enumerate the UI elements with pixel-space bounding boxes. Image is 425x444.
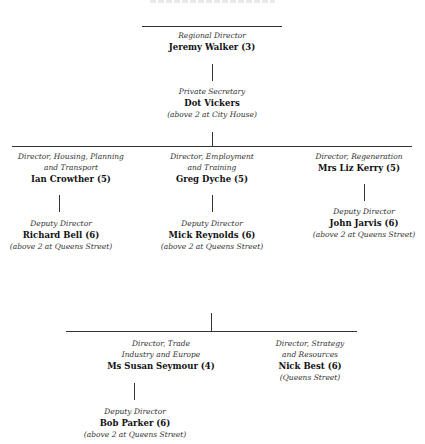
location-label: (above 2 at Queens Street) [295, 229, 425, 240]
person-name: Nick Best (6) [235, 360, 385, 372]
role-label: Director, Trade Industry and Europe [86, 338, 236, 360]
person-name: Mick Reynolds (6) [143, 229, 281, 241]
node-deputy-regeneration: Deputy Director John Jarvis (6) (above 2… [295, 206, 425, 240]
connector-line [134, 383, 135, 400]
role-label: Director, Employment and Training [143, 151, 281, 173]
node-deputy-employment: Deputy Director Mick Reynolds (6) (above… [143, 218, 281, 252]
role-label: Deputy Director [60, 406, 210, 417]
person-name: Mrs Liz Kerry (5) [290, 162, 425, 174]
role-label: Director, Regeneration [290, 151, 425, 162]
role-label: Deputy Director [295, 206, 425, 217]
node-director-regeneration: Director, Regeneration Mrs Liz Kerry (5) [290, 151, 425, 174]
location-label: (above 2 at Queens Street) [143, 241, 281, 252]
node-deputy-housing: Deputy Director Richard Bell (6) (above … [2, 218, 120, 252]
clipped-header-text [150, 0, 275, 3]
person-name: Richard Bell (6) [2, 229, 120, 241]
node-deputy-trade: Deputy Director Bob Parker (6) (above 2 … [60, 406, 210, 440]
person-name: Dot Vickers [112, 97, 312, 109]
location-label: (above 2 at Queens Street) [2, 241, 120, 252]
person-name: John Jarvis (6) [295, 217, 425, 229]
connector-line [211, 313, 212, 331]
role-label: Deputy Director [143, 218, 281, 229]
node-director-employment: Director, Employment and Training Greg D… [143, 151, 281, 185]
node-private-secretary: Private Secretary Dot Vickers (above 2 a… [112, 86, 312, 120]
role-label: Regional Director [112, 30, 312, 41]
node-director-strategy: Director, Strategy and Resources Nick Be… [235, 338, 385, 383]
connector-line [212, 195, 213, 212]
connector-line [66, 331, 357, 332]
connector-line [212, 64, 213, 81]
connector-line [212, 132, 213, 146]
role-label: Director, Strategy and Resources [235, 338, 385, 360]
connector-line [142, 26, 282, 27]
role-label: Deputy Director [2, 218, 120, 229]
connector-line [12, 146, 412, 147]
location-label: (above 2 at City House) [112, 109, 312, 120]
connector-line [59, 195, 60, 212]
node-director-housing: Director, Housing, Planning and Transpor… [2, 151, 140, 185]
node-regional-director: Regional Director Jeremy Walker (3) [112, 30, 312, 53]
person-name: Bob Parker (6) [60, 417, 210, 429]
role-label: Private Secretary [112, 86, 312, 97]
location-label: (above 2 at Queens Street) [60, 429, 210, 440]
role-label: Director, Housing, Planning and Transpor… [2, 151, 140, 173]
person-name: Ian Crowther (5) [2, 173, 140, 185]
connector-line [364, 184, 365, 201]
person-name: Greg Dyche (5) [143, 173, 281, 185]
person-name: Jeremy Walker (3) [112, 41, 312, 53]
node-director-trade: Director, Trade Industry and Europe Ms S… [86, 338, 236, 372]
person-name: Ms Susan Seymour (4) [86, 360, 236, 372]
location-label: (Queens Street) [235, 372, 385, 383]
